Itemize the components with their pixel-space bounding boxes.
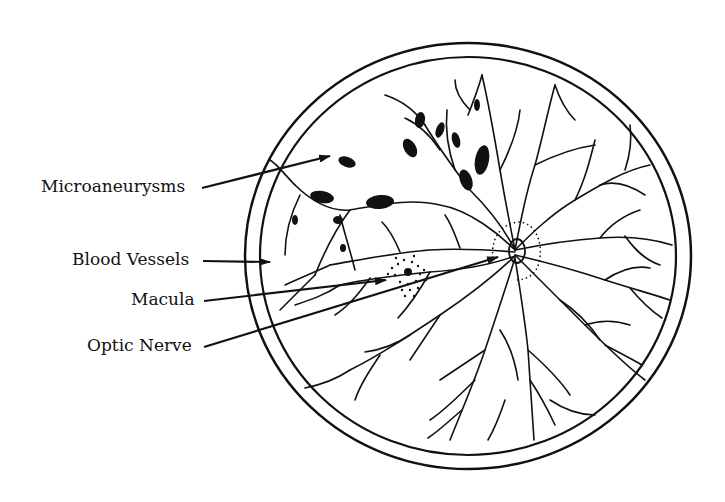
arrow-microaneurysms bbox=[202, 156, 330, 188]
arrow-optic-nerve bbox=[204, 257, 498, 347]
retina-diagram bbox=[0, 0, 725, 502]
arrow-blood-vessels bbox=[203, 261, 270, 262]
arrow-macula bbox=[204, 280, 386, 301]
blood-vessel-network bbox=[270, 75, 672, 440]
microaneurysm-blobs bbox=[292, 99, 491, 252]
